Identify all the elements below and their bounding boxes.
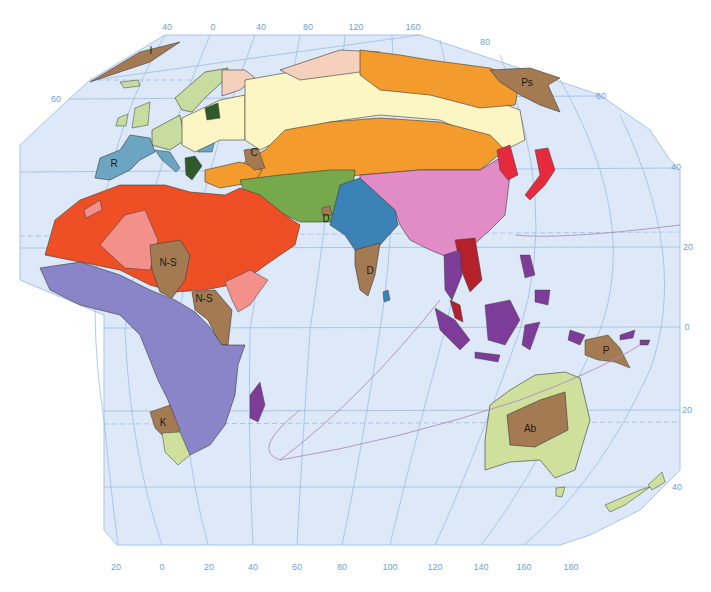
label-romance-r: R <box>110 158 117 169</box>
tick-right-40s: 40 <box>672 482 682 492</box>
tick-top-40e: 40 <box>256 22 266 32</box>
tick-bottom-140e: 140 <box>473 562 488 572</box>
label-dravidian-d-south: D <box>366 265 373 276</box>
label-khoisan-k: K <box>160 417 167 428</box>
label-dravidian-d-brahui: D <box>322 213 329 224</box>
label-paleosiberian-ps: Ps <box>521 77 533 88</box>
tick-right-20n: 20 <box>683 242 693 252</box>
tick-bottom-20e: 20 <box>204 562 214 572</box>
tick-bottom-120e: 120 <box>427 562 442 572</box>
label-papuan-p: P <box>603 345 610 356</box>
tick-top-120e: 120 <box>348 22 363 32</box>
label-aboriginal-ab: Ab <box>524 423 536 434</box>
label-nilo-saharan-2: N-S <box>195 293 212 304</box>
tick-top-0: 0 <box>210 22 215 32</box>
tick-top-80e: 80 <box>303 22 313 32</box>
label-caucasian-c: C <box>250 147 257 158</box>
tick-right-20s: 20 <box>682 405 692 415</box>
tick-bottom-20w: 20 <box>111 562 121 572</box>
tick-bottom-80e: 80 <box>337 562 347 572</box>
tick-right-60n: 60 <box>596 91 606 101</box>
tick-bottom-180: 180 <box>563 562 578 572</box>
tick-top-40w: 40 <box>162 22 172 32</box>
tick-top-160e: 160 <box>405 22 420 32</box>
language-family-map <box>0 0 711 592</box>
tick-bottom-160e: 160 <box>516 562 531 572</box>
tick-right-40n: 40 <box>671 162 681 172</box>
tick-bottom-0: 0 <box>159 562 164 572</box>
tick-left-60n: 60 <box>51 94 61 104</box>
tick-right-0: 0 <box>684 322 689 332</box>
label-nilo-saharan-1: N-S <box>159 257 176 268</box>
tick-bottom-40e: 40 <box>248 562 258 572</box>
tick-top-80n: 80 <box>480 37 490 47</box>
label-inuit-i: I <box>150 45 153 56</box>
tick-bottom-100e: 100 <box>382 562 397 572</box>
tick-bottom-60e: 60 <box>292 562 302 572</box>
